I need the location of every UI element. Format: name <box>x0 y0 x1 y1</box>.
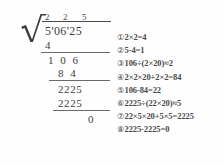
square-root-long-division: 2 2 5 5'06'25 4 1 0 6 8 4 2225 2225 0 <box>0 0 118 166</box>
step-item-5: ⑤ 106-84=22 <box>117 84 224 97</box>
work-row-subtrahend-1: 4 <box>45 39 52 51</box>
work-row-subtrahend-3: 2225 <box>58 97 82 109</box>
step-text-4: 2×2×20+2×2=84 <box>125 71 182 84</box>
step-item-1: ① 2×2=4 <box>117 31 224 44</box>
step-marker-4: ④ <box>117 71 124 84</box>
step-text-2: 5-4=1 <box>125 44 145 57</box>
step-text-3: 106÷(2×20)≈2 <box>125 57 173 70</box>
step-item-8: ⑧ 2225-2225=0 <box>117 123 224 136</box>
work-row-subtrahend-2: 8 4 <box>58 67 78 79</box>
step-text-7: 22×5×20+5×5=2225 <box>125 110 194 123</box>
step-item-2: ② 5-4=1 <box>117 44 224 57</box>
work-rule-3 <box>53 110 110 111</box>
step-marker-8: ⑧ <box>117 123 124 136</box>
step-marker-6: ⑥ <box>117 97 124 110</box>
work-row-remainder: 0 <box>88 113 95 125</box>
step-item-6: ⑥ 2225÷(22×20)≈5 <box>117 97 224 110</box>
radicand-value: 5'06'25 <box>45 24 82 38</box>
step-marker-7: ⑦ <box>117 110 124 123</box>
step-item-7: ⑦ 22×5×20+5×5=2225 <box>117 110 224 123</box>
step-text-1: 2×2=4 <box>125 31 147 44</box>
step-text-5: 106-84=22 <box>125 84 162 97</box>
step-marker-1: ① <box>117 31 124 44</box>
math-worksheet: 2 2 5 5'06'25 4 1 0 6 8 4 2225 2225 0 ① … <box>0 0 224 166</box>
radical-sign-icon <box>20 12 46 42</box>
step-item-4: ④ 2×2×20+2×2=84 <box>117 71 224 84</box>
work-rule-1 <box>41 52 110 53</box>
step-marker-5: ⑤ <box>117 84 124 97</box>
step-marker-2: ② <box>117 44 124 57</box>
step-marker-3: ③ <box>117 57 124 70</box>
work-rule-2 <box>49 80 110 81</box>
step-text-6: 2225÷(22×20)≈5 <box>125 97 182 110</box>
work-row-bring-down-2: 2225 <box>58 83 82 95</box>
step-text-8: 2225-2225=0 <box>125 123 170 136</box>
explanation-steps-list: ① 2×2=4 ② 5-4=1 ③ 106÷(2×20)≈2 ④ 2×2×20+… <box>117 31 224 137</box>
vinculum-bar <box>42 21 111 22</box>
step-item-3: ③ 106÷(2×20)≈2 <box>117 57 224 70</box>
work-row-bring-down-1: 1 0 6 <box>48 54 80 66</box>
